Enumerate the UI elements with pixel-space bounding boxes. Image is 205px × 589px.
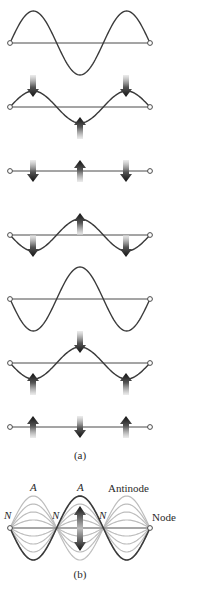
arrow-down-icon	[27, 75, 39, 97]
left-fixed-end-icon	[8, 297, 13, 302]
arrow-up-icon	[27, 373, 39, 395]
arrow-down-icon	[74, 331, 86, 353]
time-frame-3	[8, 160, 153, 182]
time-frame-7	[8, 416, 153, 438]
right-fixed-end-icon	[148, 297, 153, 302]
standing-wave-diagram	[0, 0, 205, 589]
right-fixed-end-icon	[148, 526, 153, 531]
right-fixed-end-icon	[148, 361, 153, 366]
left-fixed-end-icon	[8, 526, 13, 531]
right-fixed-end-icon	[148, 41, 153, 46]
left-fixed-end-icon	[8, 233, 13, 238]
arrow-down-icon	[120, 75, 132, 97]
left-fixed-end-icon	[8, 105, 13, 110]
node-label-n2: N	[52, 509, 59, 521]
left-fixed-end-icon	[8, 425, 13, 430]
antinode-label-a2: A	[77, 481, 84, 493]
node-label-n1: N	[4, 509, 11, 521]
arrow-up-icon	[74, 213, 86, 235]
arrow-up-icon	[74, 117, 86, 139]
time-frame-2	[8, 75, 153, 139]
caption-part-a: (a)	[74, 449, 86, 461]
antinode-callout: Antinode	[108, 482, 149, 494]
antinode-label-a1: A	[30, 481, 37, 493]
time-frame-4	[8, 213, 153, 257]
right-fixed-end-icon	[148, 233, 153, 238]
time-frame-6	[8, 331, 153, 395]
time-frame-1	[8, 11, 153, 75]
standing-wave-figure: (a) A A Antinode N N N Node (b)	[0, 0, 205, 589]
arrow-down-icon	[120, 235, 132, 257]
left-fixed-end-icon	[8, 169, 13, 174]
right-fixed-end-icon	[148, 105, 153, 110]
part-a-time-frames	[8, 11, 153, 438]
part-b-envelope	[8, 496, 153, 560]
caption-part-b: (b)	[74, 568, 87, 580]
left-fixed-end-icon	[8, 361, 13, 366]
right-fixed-end-icon	[148, 425, 153, 430]
node-callout: Node	[152, 511, 176, 523]
node-label-n3: N	[99, 509, 106, 521]
arrow-up-icon	[120, 373, 132, 395]
arrow-down-icon	[27, 235, 39, 257]
time-frame-5	[8, 267, 153, 331]
right-fixed-end-icon	[148, 169, 153, 174]
left-fixed-end-icon	[8, 41, 13, 46]
